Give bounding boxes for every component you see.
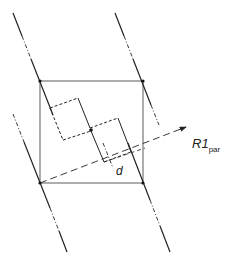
direction-arrow <box>40 127 186 183</box>
distance-label: d <box>116 164 123 178</box>
direction-label-subscript: par <box>209 145 221 154</box>
parallel-line-top-right <box>115 13 159 125</box>
parallel-line-bottom-right <box>103 143 170 252</box>
parallel-line-top-left <box>13 13 53 115</box>
diagram-canvas: d R1par <box>0 0 229 257</box>
direction-label: R1par <box>192 136 221 154</box>
center-point <box>89 128 93 132</box>
direction-label-main: R1 <box>192 136 209 151</box>
